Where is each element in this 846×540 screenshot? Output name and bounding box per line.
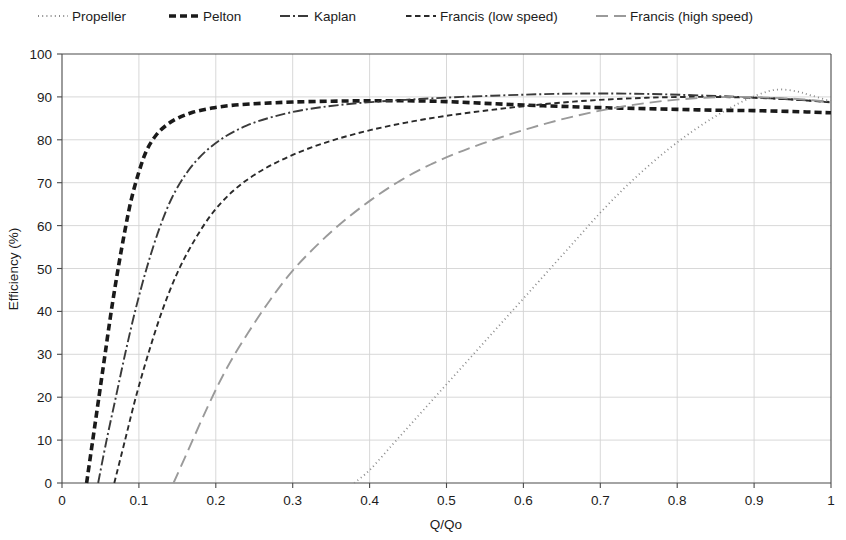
x-tick-label: 0.3 — [283, 493, 302, 508]
x-tick-label: 0.4 — [360, 493, 379, 508]
chart-background — [0, 0, 846, 540]
legend-label-francis-low-speed: Francis (low speed) — [440, 9, 558, 24]
y-tick-label: 90 — [37, 90, 52, 105]
y-tick-label: 40 — [37, 304, 52, 319]
efficiency-vs-flow-chart: PropellerPeltonKaplanFrancis (low speed)… — [0, 0, 846, 540]
x-axis-title: Q/Qo — [430, 517, 462, 532]
y-tick-label: 80 — [37, 133, 52, 148]
legend-label-francis-high-speed: Francis (high speed) — [630, 9, 753, 24]
y-tick-label: 30 — [37, 347, 52, 362]
y-tick-label: 10 — [37, 433, 52, 448]
x-tick-label: 0.6 — [514, 493, 533, 508]
legend-label-propeller: Propeller — [72, 9, 127, 24]
x-tick-label: 0.8 — [668, 493, 687, 508]
y-tick-label: 70 — [37, 176, 52, 191]
x-tick-label: 0.9 — [745, 493, 764, 508]
legend-label-kaplan: Kaplan — [314, 9, 356, 24]
y-tick-label: 60 — [37, 219, 52, 234]
x-tick-label: 0.2 — [206, 493, 225, 508]
chart-canvas: PropellerPeltonKaplanFrancis (low speed)… — [0, 0, 846, 540]
x-tick-label: 0.5 — [437, 493, 456, 508]
x-tick-label: 1 — [827, 493, 835, 508]
x-tick-label: 0.7 — [591, 493, 610, 508]
y-tick-label: 20 — [37, 390, 52, 405]
x-tick-label: 0.1 — [130, 493, 149, 508]
y-tick-label: 50 — [37, 262, 52, 277]
y-tick-label: 0 — [44, 476, 52, 491]
y-axis-title: Efficiency (%) — [6, 228, 21, 310]
y-tick-label: 100 — [29, 47, 52, 62]
x-tick-label: 0 — [58, 493, 66, 508]
legend-label-pelton: Pelton — [203, 9, 241, 24]
